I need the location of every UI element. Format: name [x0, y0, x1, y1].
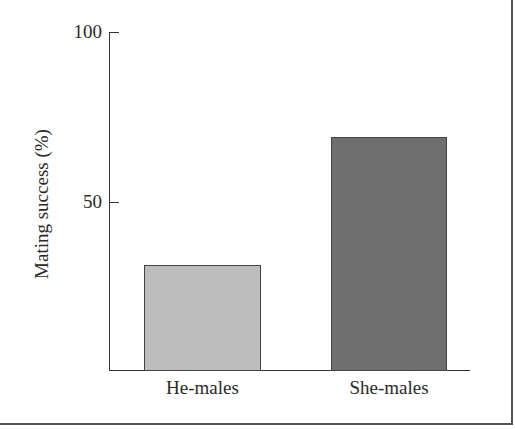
y-tick-100 — [109, 32, 119, 33]
bar-he-males — [144, 265, 261, 371]
x-category-label-she-males: She-males — [331, 377, 447, 399]
x-category-label-he-males: He-males — [144, 377, 261, 399]
y-tick-label-100: 100 — [52, 22, 102, 41]
frame-border-bottom — [0, 423, 513, 425]
y-axis-label: Mating success (%) — [31, 129, 53, 279]
y-tick-label-50: 50 — [52, 192, 102, 211]
bar-she-males — [331, 137, 447, 371]
frame-border-right — [511, 0, 513, 425]
y-tick-50 — [109, 202, 119, 203]
